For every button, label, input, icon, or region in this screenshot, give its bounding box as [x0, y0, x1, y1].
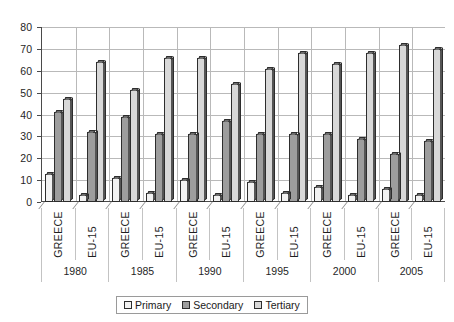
bar	[332, 64, 340, 202]
y-axis-tick-label: 0	[6, 197, 32, 207]
bar-side-face	[431, 139, 434, 201]
y-axis-tick-label: 20	[6, 153, 32, 163]
bar-side-face	[389, 187, 392, 201]
category-label-cell: GREECE	[108, 208, 142, 260]
y-axis-tick-label: 70	[6, 44, 32, 54]
bar	[314, 187, 322, 202]
category-label-text: EU-15	[221, 226, 232, 258]
bar-side-face	[406, 43, 409, 201]
category-label-text: EU-15	[87, 226, 98, 258]
group-labels: 198019851990199520002005	[41, 260, 445, 282]
bar	[382, 189, 390, 202]
bar	[424, 141, 432, 202]
category-label-cell: EU-15	[344, 208, 378, 260]
bar-side-face	[128, 115, 131, 201]
bar-side-face	[229, 120, 232, 201]
y-axis-tick-label: 80	[6, 22, 32, 32]
bar	[87, 132, 95, 202]
bar	[121, 117, 129, 202]
group-label-1980: 1980	[41, 260, 108, 282]
y-axis-tick-label: 40	[6, 110, 32, 120]
category-label-text: GREECE	[120, 211, 131, 258]
legend-swatch-icon	[182, 301, 190, 309]
category-label-text: GREECE	[255, 211, 266, 258]
bar	[146, 193, 154, 202]
legend-swatch-icon	[124, 301, 132, 309]
y-axis-tick-label: 10	[6, 175, 32, 185]
bar-side-face	[297, 133, 300, 201]
bar-side-face	[196, 133, 199, 201]
category-label-cell: GREECE	[176, 208, 210, 260]
bar-side-face	[52, 172, 55, 201]
category-label-cell: EU-15	[142, 208, 176, 260]
category-label-text: EU-15	[356, 226, 367, 258]
bar-side-face	[70, 98, 73, 201]
y-axis-tick-label: 30	[6, 131, 32, 141]
bar-side-face	[171, 56, 174, 201]
bar-side-face	[440, 47, 443, 201]
category-label-cell: GREECE	[243, 208, 277, 260]
legend-item-secondary[interactable]: Secondary	[182, 300, 243, 311]
category-label-cell: EU-15	[75, 208, 109, 260]
bar	[281, 193, 289, 202]
bar	[79, 195, 87, 202]
bar-side-face	[204, 56, 207, 201]
bar-side-face	[398, 152, 401, 201]
category-label-text: EU-15	[289, 226, 300, 258]
category-label-cell: GREECE	[378, 208, 412, 260]
bar-side-face	[103, 60, 106, 201]
legend-label: Primary	[135, 300, 171, 311]
category-label-text: GREECE	[322, 211, 333, 258]
chart-root: 01020304050607080 GREECEEU-15GREECEEU-15…	[0, 0, 454, 322]
category-label-text: GREECE	[390, 211, 401, 258]
bar-side-face	[272, 67, 275, 201]
chart-legend: PrimarySecondaryTertiary	[116, 296, 308, 314]
legend-swatch-icon	[254, 301, 262, 309]
bar-side-face	[263, 133, 266, 201]
bar	[433, 49, 441, 202]
bar	[213, 195, 221, 202]
bar	[45, 174, 53, 202]
y-axis-tick-label: 50	[6, 88, 32, 98]
category-label-text: EU-15	[423, 226, 434, 258]
bar	[180, 180, 188, 202]
category-label-text: GREECE	[188, 211, 199, 258]
bar	[323, 134, 331, 202]
group-label-1995: 1995	[243, 260, 310, 282]
legend-label: Tertiary	[265, 300, 299, 311]
bars-layer	[41, 27, 445, 202]
bar-side-face	[364, 137, 367, 201]
legend-item-primary[interactable]: Primary	[124, 300, 171, 311]
bar-side-face	[61, 111, 64, 201]
category-label-text: EU-15	[154, 226, 165, 258]
category-label-cell: EU-15	[411, 208, 445, 260]
bar	[130, 90, 138, 202]
bar-side-face	[254, 181, 257, 201]
bar	[415, 195, 423, 202]
bar-side-face	[238, 82, 241, 201]
bar-side-face	[187, 179, 190, 201]
group-label-1985: 1985	[108, 260, 175, 282]
bar-side-face	[162, 133, 165, 201]
bar-side-face	[95, 130, 98, 201]
bar	[348, 195, 356, 202]
bar	[247, 182, 255, 202]
bar	[112, 178, 120, 202]
category-labels: GREECEEU-15GREECEEU-15GREECEEU-15GREECEE…	[41, 208, 445, 260]
bar-side-face	[137, 89, 140, 201]
bar-side-face	[373, 52, 376, 201]
bar-side-face	[330, 133, 333, 201]
bar	[222, 121, 230, 202]
legend-item-tertiary[interactable]: Tertiary	[254, 300, 299, 311]
bar	[231, 84, 239, 202]
category-label-cell: GREECE	[310, 208, 344, 260]
category-label-cell: EU-15	[277, 208, 311, 260]
category-label-cell: GREECE	[41, 208, 75, 260]
group-label-2000: 2000	[310, 260, 377, 282]
group-label-2005: 2005	[378, 260, 445, 282]
bar-side-face	[305, 52, 308, 201]
bar-side-face	[339, 63, 342, 201]
category-label-text: GREECE	[53, 211, 64, 258]
category-label-cell: EU-15	[209, 208, 243, 260]
group-label-1990: 1990	[176, 260, 243, 282]
